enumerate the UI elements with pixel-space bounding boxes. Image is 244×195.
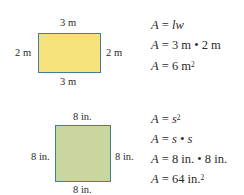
eq-lhs: A <box>151 172 159 186</box>
square-left-label: 8 in. <box>31 151 50 163</box>
square-top-label: 8 in. <box>73 111 92 123</box>
rect-equation-2: A = 3 m • 2 m <box>151 38 221 52</box>
rect-right-label: 2 m <box>106 47 122 59</box>
eq-lhs: A <box>151 132 159 146</box>
eq-op: = <box>162 132 169 146</box>
eq-rhs: 8 in. • 8 in. <box>172 152 227 166</box>
rect-left-label: 2 m <box>15 47 31 59</box>
rect-equation-3: A = 6 m2 <box>151 59 195 73</box>
eq-op: = <box>162 18 169 32</box>
eq-exponent: 2 <box>200 173 204 182</box>
eq-lhs: A <box>151 18 159 32</box>
eq-op: = <box>162 38 169 52</box>
rect-bottom-label: 3 m <box>60 76 76 88</box>
square-equation-3: A = 8 in. • 8 in. <box>151 152 227 166</box>
square-equation-2: A = s • s <box>151 132 192 146</box>
rect-top-label: 3 m <box>60 17 76 29</box>
rect-equation-1: A = lw <box>151 18 184 32</box>
square-right-label: 8 in. <box>115 151 134 163</box>
eq-rhs: 64 in. <box>172 172 200 186</box>
square-equation-4: A = 64 in.2 <box>151 172 204 186</box>
eq-op: = <box>162 59 169 73</box>
square-shape <box>55 125 111 182</box>
eq-exponent: 2 <box>191 60 195 69</box>
eq-op: = <box>162 152 169 166</box>
rectangle-shape <box>38 33 101 73</box>
eq-rhs: s • s <box>172 132 192 146</box>
eq-op: = <box>162 172 169 186</box>
square-bottom-label: 8 in. <box>73 184 92 195</box>
eq-lhs: A <box>151 38 159 52</box>
eq-lhs: A <box>151 112 159 126</box>
eq-op: = <box>162 112 169 126</box>
eq-rhs: lw <box>172 18 184 32</box>
eq-lhs: A <box>151 152 159 166</box>
eq-rhs: 6 m <box>172 59 191 73</box>
square-equation-1: A = s2 <box>151 112 181 126</box>
eq-lhs: A <box>151 59 159 73</box>
eq-exponent: 2 <box>177 113 181 122</box>
eq-rhs: 3 m • 2 m <box>172 38 221 52</box>
